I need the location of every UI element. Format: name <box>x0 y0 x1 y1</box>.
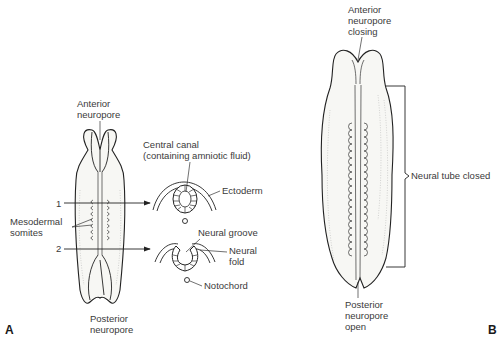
anterior-neuropore-closing-label-line1: Anterior <box>348 4 381 15</box>
panel-b-label: B <box>488 323 497 337</box>
ectoderm-leader <box>208 191 220 196</box>
notochord-label: Notochord <box>204 280 248 291</box>
posterior-neuropore-label-line1: Posterior <box>90 313 128 324</box>
posterior-neuropore-open-label-line2: neuropore <box>345 310 388 321</box>
mesodermal-somites-label-line2: somites <box>10 227 43 238</box>
neural-tube-diagram: Anterior neuropore Posterior neuropore M… <box>0 0 502 344</box>
embryo-b-drawing <box>321 50 393 288</box>
neural-fold-label-line1: Neural <box>229 245 257 256</box>
neural-fold-label-line2: fold <box>229 256 244 267</box>
neural-tube-closed-label: Neural tube closed <box>411 170 490 181</box>
central-canal-label-line2: (containing amniotic fluid) <box>143 150 251 161</box>
cross-section-2 <box>155 244 215 283</box>
anterior-neuropore-label-line1: Anterior <box>77 98 110 109</box>
anterior-neuropore-label-line2: neuropore <box>77 109 120 120</box>
section-2-label: 2 <box>56 243 61 254</box>
mesodermal-somites-label-line1: Mesodermal <box>10 216 62 227</box>
panel-a-label: A <box>5 323 14 337</box>
posterior-neuropore-open-label-line3: open <box>345 321 366 332</box>
embryo-a-drawing <box>75 130 125 304</box>
neural-groove-label: Neural groove <box>198 227 258 238</box>
section-1-label: 1 <box>56 198 61 209</box>
notochord-leader <box>190 281 202 286</box>
posterior-neuropore-open-label-line1: Posterior <box>345 299 383 310</box>
central-canal-label-line1: Central canal <box>143 139 199 150</box>
cross-section-1 <box>153 182 216 224</box>
posterior-neuropore-label-line2: neuropore <box>90 324 133 335</box>
neural-fold-leader <box>200 250 227 252</box>
ectoderm-label: Ectoderm <box>222 185 263 196</box>
panel-a: Anterior neuropore Posterior neuropore M… <box>5 98 263 337</box>
panel-b: Neural tube closed Anterior neuropore cl… <box>321 4 497 337</box>
anterior-neuropore-closing-label-line3: closing <box>348 26 378 37</box>
anterior-neuropore-closing-label-line2: neuropore <box>348 15 391 26</box>
